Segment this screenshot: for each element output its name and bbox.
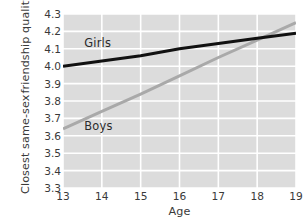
y-tick-label: 3.7 (36, 113, 61, 124)
x-tick-label: 18 (245, 190, 269, 203)
series-label-boys: Boys (84, 119, 112, 133)
x-tick-label: 15 (129, 190, 153, 203)
friendship-quality-line-chart: Closest same-sex friendship quality 4.34… (0, 0, 306, 223)
y-tick-label: 3.9 (36, 78, 61, 89)
y-tick-label: 4.0 (36, 61, 61, 72)
x-axis-title: Age (63, 205, 296, 218)
y-tick-label: 4.2 (36, 26, 61, 37)
x-tick-label: 13 (51, 190, 75, 203)
y-tick-label: 3.8 (36, 96, 61, 107)
y-tick-label: 3.6 (36, 130, 61, 141)
y-tick-label: 3.4 (36, 165, 61, 176)
y-axis-title-line-2: friendship quality (18, 0, 33, 93)
x-tick-label: 16 (168, 190, 192, 203)
y-tick-label: 4.1 (36, 43, 61, 54)
y-axis-title-line-1: Closest same-sex (18, 94, 33, 194)
y-tick-label: 3.5 (36, 148, 61, 159)
y-axis-tick-labels: 4.34.24.14.03.93.83.73.63.53.43.3 (36, 9, 61, 188)
x-axis-tick-labels: 13141516171819 (63, 190, 296, 204)
series-label-girls: Girls (84, 36, 111, 50)
y-tick-label: 4.3 (36, 9, 61, 20)
x-tick-label: 14 (90, 190, 114, 203)
x-tick-label: 19 (284, 190, 306, 203)
x-tick-label: 17 (206, 190, 230, 203)
